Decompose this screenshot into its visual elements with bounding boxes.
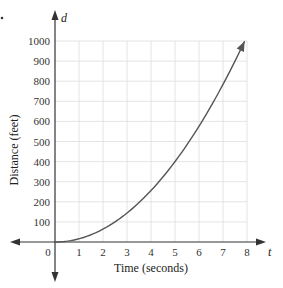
y-axis-variable: d — [61, 11, 68, 25]
decorative-dot — [1, 17, 4, 20]
x-axis-label: Time (seconds) — [114, 261, 188, 275]
curve-arrow-icon — [237, 41, 245, 52]
y-tick-label: 400 — [34, 156, 51, 168]
distance-time-chart: 0123456781002003004005006007008009001000… — [0, 0, 283, 288]
x-tick-label: 1 — [76, 246, 82, 258]
tick-labels: 0123456781002003004005006007008009001000 — [28, 35, 250, 258]
x-tick-label: 8 — [244, 246, 250, 258]
y-tick-label: 700 — [34, 95, 51, 107]
y-tick-label: 1000 — [28, 35, 51, 47]
x-tick-label: 6 — [196, 246, 202, 258]
y-tick-label: 200 — [34, 196, 51, 208]
y-tick-label: 500 — [34, 136, 51, 148]
y-tick-label: 900 — [34, 55, 51, 67]
y-tick-label: 800 — [34, 75, 51, 87]
x-tick-label: 2 — [100, 246, 106, 258]
y-tick-label: 300 — [34, 176, 51, 188]
y-tick-label: 100 — [34, 216, 51, 228]
x-tick-label: 3 — [124, 246, 130, 258]
y-tick-label: 600 — [34, 115, 51, 127]
x-axis-left-arrow-icon — [10, 239, 20, 246]
x-tick-label: 7 — [220, 246, 226, 258]
y-axis-label: Distance (feet) — [7, 115, 21, 186]
y-axis-up-arrow-icon — [52, 10, 59, 20]
x-tick-label: 5 — [172, 246, 178, 258]
x-tick-label: 4 — [148, 246, 154, 258]
x-tick-label: 0 — [45, 246, 51, 258]
x-axis-variable: t — [268, 245, 272, 259]
grid-lines — [55, 41, 247, 242]
x-axis-right-arrow-icon — [256, 239, 266, 246]
y-axis-down-arrow-icon — [52, 272, 59, 282]
